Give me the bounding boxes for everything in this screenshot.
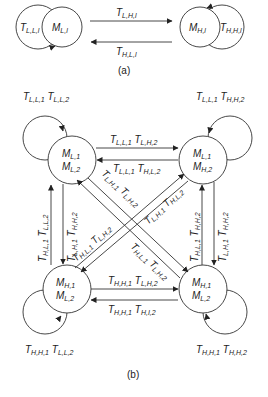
edge-label-bl-br: TH,H,1 TL,H,2 <box>108 275 158 287</box>
loop-label-tl: TL,L,1 TL,L,2 <box>23 91 69 103</box>
caption-b: (b) <box>127 369 139 380</box>
loop-label-tr: TL,L,1 TH,H,2 <box>196 91 245 103</box>
node-tr <box>179 136 227 184</box>
loop-label-right-a: TH,H,l <box>220 22 242 34</box>
edge-label-l-h-a: TL,H,l <box>116 7 137 19</box>
markov-diagram: TL,L,l ML,l MH,l TH,H,l TL,H,l TH,L,l (a… <box>0 0 268 397</box>
caption-a: (a) <box>118 65 130 76</box>
node-bl <box>43 265 91 313</box>
loop-label-left-a: TL,L,l <box>20 22 40 34</box>
edge-label-bl-tl: TH,L,1 TL,L,2 <box>37 215 49 262</box>
edge-label-br-bl: TH,H,1 TH,I,2 <box>108 304 156 316</box>
edge-label-tr-br: TL,H,1 TH,H,2 <box>217 212 229 262</box>
loop-label-br: TH,H,1 TH,H,2 <box>196 344 247 356</box>
edge-label-tl-tr: TL,L,1 TL,H,2 <box>110 134 157 146</box>
loop-label-bl: TH,H,1 TL,L,2 <box>25 344 74 356</box>
node-tl <box>48 136 96 184</box>
edge-label-tr-tl: TL,L,1 TH,L,2 <box>113 163 160 175</box>
node-br <box>179 265 227 313</box>
edge-label-br-tr: TH,L,1 TH,H,2 <box>189 212 201 262</box>
edge-label-h-l-a: TH,L,l <box>116 46 137 58</box>
